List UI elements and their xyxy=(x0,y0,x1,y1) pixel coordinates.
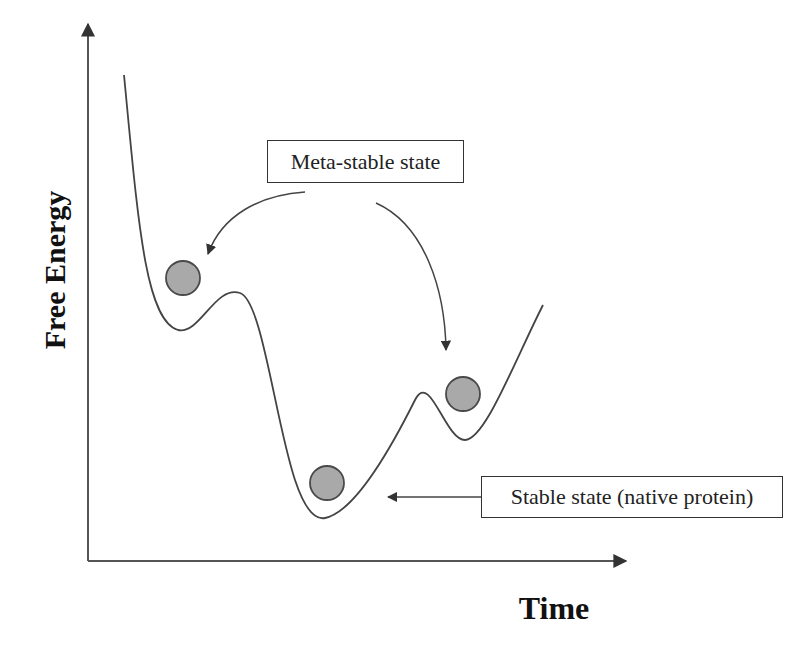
energy-landscape-diagram xyxy=(0,0,807,645)
y-axis-label: Free Energy xyxy=(38,191,72,350)
stable-state-text: Stable state (native protein) xyxy=(511,484,754,510)
native-stable-ball xyxy=(310,466,344,500)
meta-stable-state-text: Meta-stable state xyxy=(291,149,441,175)
meta-stable-arrow-right xyxy=(376,203,446,350)
meta-stable-state-label: Meta-stable state xyxy=(267,140,464,183)
left-meta-stable-ball xyxy=(166,261,200,295)
meta-stable-arrow-left xyxy=(208,192,305,254)
right-meta-stable-ball xyxy=(446,377,480,411)
stable-state-label: Stable state (native protein) xyxy=(481,476,783,518)
x-axis-label: Time xyxy=(519,590,590,627)
